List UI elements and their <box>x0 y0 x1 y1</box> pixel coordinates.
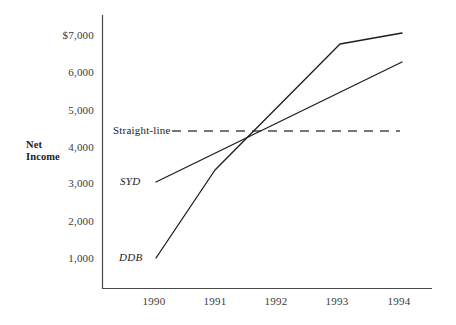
series-line-syd <box>156 62 402 182</box>
y-tick-label-7000: $7,000 <box>32 29 94 41</box>
x-tick-label-1992: 1992 <box>251 295 301 307</box>
x-tick-label-1990: 1990 <box>129 295 179 307</box>
y-tick-label-5000: 5,000 <box>32 104 94 116</box>
x-tick-label-1994: 1994 <box>374 295 424 307</box>
net-income-depreciation-chart: Net Income $7,000 6,000 5,000 4,000 3,00… <box>0 0 456 325</box>
y-tick-label-4000: 4,000 <box>32 141 94 153</box>
series-label-straight-line: Straight-line <box>113 124 171 136</box>
x-tick-label-1993: 1993 <box>312 295 362 307</box>
y-tick-label-1000: 1,000 <box>32 252 94 264</box>
y-tick-label-6000: 6,000 <box>32 66 94 78</box>
y-tick-label-2000: 2,000 <box>32 215 94 227</box>
series-label-syd: SYD <box>120 175 140 187</box>
y-tick-label-3000: 3,000 <box>32 177 94 189</box>
series-line-ddb <box>156 33 402 258</box>
x-tick-label-1991: 1991 <box>190 295 240 307</box>
series-label-ddb: DDB <box>119 251 143 263</box>
